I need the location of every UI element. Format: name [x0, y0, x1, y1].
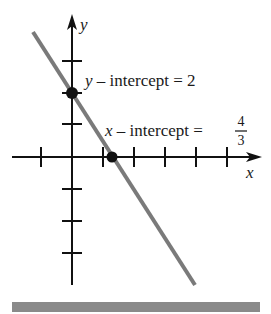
intercept-graph: y x y – intercept = 2 x – intercept = 4 …	[0, 0, 271, 314]
x-axis-label: x	[245, 163, 254, 182]
y-intercept-label: y – intercept = 2	[83, 71, 196, 90]
x-intercept-denominator: 3	[238, 133, 245, 148]
x-intercept-numerator: 4	[238, 114, 245, 129]
x-intercept-point	[107, 152, 118, 163]
y-intercept-point	[66, 87, 78, 99]
footer-bar	[12, 302, 260, 312]
x-intercept-label: x – intercept =	[104, 121, 203, 140]
y-axis-label: y	[78, 15, 88, 34]
